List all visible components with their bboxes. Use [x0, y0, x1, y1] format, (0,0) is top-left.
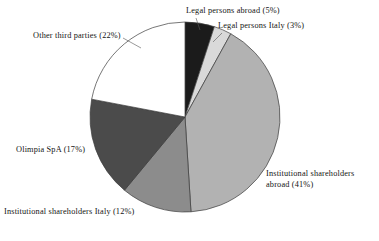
pie-label-legal-persons-italy: Legal persons Italy (3%) [218, 21, 304, 32]
pie-slice-group [90, 22, 280, 212]
pie-label-olimpia-spa: Olimpia SpA (17%) [16, 145, 85, 156]
pie-label-inst-abroad-line2: abroad (41%) [266, 180, 313, 189]
pie-label-institutional-shareholders-italy: Institutional shareholders Italy (12%) [4, 207, 135, 218]
pie-label-inst-abroad-line1: Institutional shareholders [266, 169, 354, 178]
pie-chart-figure: Legal persons abroad (5%) Legal persons … [0, 0, 379, 241]
pie-label-other-third-parties: Other third parties (22%) [33, 31, 121, 42]
pie-label-legal-persons-abroad: Legal persons abroad (5%) [186, 6, 280, 17]
pie-label-institutional-shareholders-abroad: Institutional shareholders abroad (41%) [266, 169, 362, 190]
